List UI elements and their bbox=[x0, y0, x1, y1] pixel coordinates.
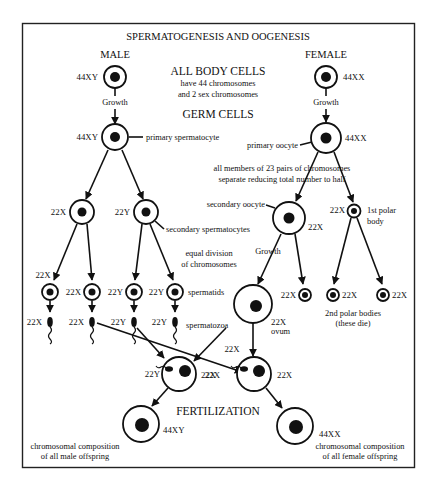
primary-oocyte-genotype: 44XX bbox=[345, 133, 367, 143]
reduction-note-1: all members of 23 pairs of chromosomes bbox=[214, 164, 351, 173]
spermatids-label: spermatids bbox=[188, 288, 224, 297]
primary-spermatocyte-cell bbox=[102, 124, 128, 150]
body-cells-note-2: and 2 sex chromosomes bbox=[178, 90, 258, 99]
offspring-male-genotype: 44XY bbox=[163, 425, 185, 435]
first-polar-label-1: 1st polar bbox=[367, 206, 396, 215]
first-polar-body bbox=[348, 205, 361, 218]
second-polar-body-2 bbox=[327, 289, 339, 301]
second-polar-label-2: (these die) bbox=[335, 319, 370, 328]
equal-division-note-1: equal division bbox=[185, 249, 233, 258]
secondary-spermatocyte-x bbox=[70, 200, 94, 224]
spermatid-2-genotype: 22X bbox=[66, 287, 82, 297]
female-growth-label: Growth bbox=[313, 98, 339, 107]
zygote-female-cell bbox=[231, 357, 271, 391]
spermatozoon-4 bbox=[172, 317, 178, 344]
spermatozoon-4-genotype: 22Y bbox=[152, 317, 168, 327]
first-polar-label-2: body bbox=[367, 217, 385, 226]
male-offspring-caption-2: of all male offspring bbox=[41, 452, 110, 461]
second-polar-1-genotype: 22X bbox=[281, 290, 297, 300]
secondary-y-genotype: 22Y bbox=[115, 207, 131, 217]
primary-oocyte-label: primary oocyte bbox=[247, 141, 298, 150]
second-polar-2-genotype: 22X bbox=[342, 290, 358, 300]
second-polar-label-1: 2nd polar bodies bbox=[325, 309, 381, 318]
ovum-label: ovum bbox=[271, 327, 291, 336]
secondary-spermatocyte-y bbox=[134, 200, 158, 224]
male-body-genotype: 44XY bbox=[76, 72, 98, 82]
female-body-cell bbox=[315, 66, 337, 88]
male-offspring-caption-1: chromosomal composition bbox=[30, 442, 120, 451]
offspring-female-cell bbox=[277, 408, 313, 444]
secondary-oocyte-label: secondary oocyte bbox=[207, 200, 266, 209]
equal-division-note-2: of chromosomes bbox=[181, 260, 237, 269]
primary-spermatocyte-genotype: 44XY bbox=[76, 132, 98, 142]
spermatozoon-1-genotype: 22X bbox=[27, 317, 43, 327]
spermatid-3 bbox=[126, 284, 142, 300]
zygote-female-sperm-genotype: 22X bbox=[224, 344, 240, 354]
germ-cells-heading: GERM CELLS bbox=[182, 108, 253, 120]
ovum-cell bbox=[234, 285, 272, 323]
offspring-male-cell bbox=[123, 406, 159, 442]
zygote-female-left-genotype: 22X bbox=[205, 370, 221, 380]
zygote-male-cell bbox=[156, 357, 196, 391]
spermatid-4 bbox=[167, 284, 183, 300]
female-offspring-caption-1: chromosomal composition bbox=[315, 442, 405, 451]
spermatid-4-genotype: 22Y bbox=[149, 287, 165, 297]
female-heading: FEMALE bbox=[305, 49, 347, 60]
spermatid-2 bbox=[84, 284, 100, 300]
secondary-spermatocytes-label: secondary spermatocytes bbox=[166, 225, 250, 234]
second-polar-body-1 bbox=[299, 289, 311, 301]
female-body-genotype: 44XX bbox=[343, 72, 365, 82]
zygote-male-sperm-genotype: 22Y bbox=[145, 369, 161, 379]
spermatozoon-1 bbox=[47, 317, 53, 344]
fertilization-heading: FERTILIZATION bbox=[176, 405, 260, 417]
female-offspring-caption-2: of all female offspring bbox=[323, 452, 399, 461]
primary-oocyte-cell bbox=[311, 123, 341, 153]
spermatid-1-top-genotype: 22X bbox=[35, 270, 51, 280]
body-cells-heading: ALL BODY CELLS bbox=[171, 65, 266, 77]
female-growth2-label: Growth bbox=[255, 247, 281, 256]
zygote-female-egg-genotype: 22X bbox=[277, 370, 293, 380]
reduction-note-2: separate reducing total number to half bbox=[218, 175, 345, 184]
second-polar-body-3 bbox=[377, 289, 389, 301]
offspring-female-genotype: 44XX bbox=[319, 429, 341, 439]
first-polar-genotype: 22X bbox=[330, 205, 346, 215]
primary-spermatocyte-label: primary spermatocyte bbox=[146, 133, 220, 142]
male-heading: MALE bbox=[100, 49, 130, 60]
spermatozoon-2 bbox=[89, 317, 95, 344]
spermatid-1 bbox=[42, 284, 58, 300]
secondary-oocyte-cell bbox=[273, 202, 305, 234]
spermatozoa-label: spermatozoa bbox=[186, 321, 229, 330]
spermatozoon-3-genotype: 22Y bbox=[111, 317, 127, 327]
male-growth-label: Growth bbox=[102, 98, 128, 107]
spermatid-3-genotype: 22Y bbox=[108, 287, 124, 297]
secondary-x-genotype: 22X bbox=[51, 207, 67, 217]
male-body-cell bbox=[104, 66, 126, 88]
ovum-genotype: 22X bbox=[271, 317, 287, 327]
diagram-title: SPERMATOGENESIS AND OOGENESIS bbox=[126, 31, 310, 42]
secondary-oocyte-genotype: 22X bbox=[308, 222, 324, 232]
spermatozoon-3 bbox=[131, 317, 137, 344]
spermatozoon-2-genotype: 22X bbox=[69, 317, 85, 327]
body-cells-note-1: have 44 chromosomes bbox=[181, 79, 256, 88]
diagram-canvas: SPERMATOGENESIS AND OOGENESIS MALE FEMAL… bbox=[0, 0, 436, 487]
second-polar-3-genotype: 22X bbox=[392, 290, 408, 300]
